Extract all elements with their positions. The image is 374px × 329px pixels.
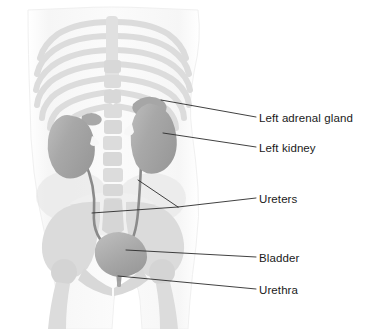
label-ureters: Ureters bbox=[259, 194, 297, 206]
label-left-kidney: Left kidney bbox=[259, 143, 316, 155]
label-bladder: Bladder bbox=[259, 253, 299, 265]
label-urethra: Urethra bbox=[259, 285, 298, 297]
anatomy-figure: Left adrenal gland Left kidney Ureters B… bbox=[0, 0, 374, 329]
label-left-adrenal-gland: Left adrenal gland bbox=[259, 113, 353, 125]
anatomy-illustration bbox=[0, 0, 374, 329]
